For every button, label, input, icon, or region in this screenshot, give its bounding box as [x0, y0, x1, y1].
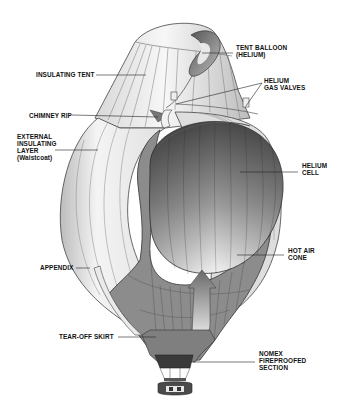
label-line: HELIUM [264, 77, 305, 84]
label-line: HOT AIR [288, 247, 315, 254]
nomex-fireproofed-section [155, 355, 193, 368]
label-nomex-fireproofed-section: NOMEX FIREPROOFED SECTION [259, 350, 306, 371]
label-line: SECTION [259, 364, 306, 371]
label-line: (Waistcoat) [17, 154, 57, 161]
label-line: HELIUM [302, 162, 327, 169]
label-line: TENT BALLOON [236, 44, 287, 51]
label-line: NOMEX [259, 350, 306, 357]
label-external-insulating-layer: EXTERNAL INSULATING LAYER (Waistcoat) [17, 133, 57, 161]
label-tent-balloon: TENT BALLOON (HELIUM) [236, 44, 287, 58]
balloon-diagram: TENT BALLOON (HELIUM) INSULATING TENT HE… [0, 0, 342, 413]
label-line: LAYER [17, 147, 57, 154]
label-line: CONE [288, 254, 315, 261]
label-chimney-rip: CHIMNEY RIP [29, 112, 72, 119]
label-insulating-tent: INSULATING TENT [36, 71, 95, 78]
label-helium-cell: HELIUM CELL [302, 162, 327, 176]
insulating-tent [95, 23, 250, 128]
label-line: (HELIUM) [236, 51, 287, 58]
label-helium-gas-valves: HELIUM GAS VALVES [264, 77, 305, 91]
label-line: GAS VALVES [264, 84, 305, 91]
label-line: FIREPROOFED [259, 357, 306, 364]
gondola [158, 368, 192, 395]
label-line: EXTERNAL [17, 133, 57, 140]
label-hot-air-cone: HOT AIR CONE [288, 247, 315, 261]
label-tear-off-skirt: TEAR-OFF SKIRT [59, 333, 114, 340]
label-line: CELL [302, 169, 327, 176]
label-appendix: APPENDIX [40, 264, 73, 271]
label-line: INSULATING [17, 140, 57, 147]
